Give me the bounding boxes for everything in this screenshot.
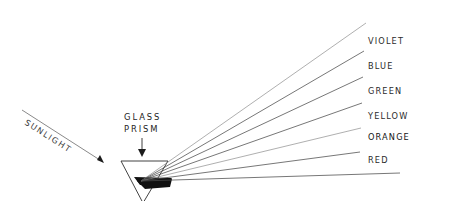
spectrum-ray-red (141, 152, 360, 181)
spectrum-ray-violet (141, 23, 366, 181)
prism-callout-group: GLASS PRISM (124, 112, 161, 157)
spectrum-label-violet: VIOLET (368, 36, 404, 46)
prism-label-line-1: GLASS (124, 112, 161, 122)
spectrum-label-column: VIOLETBLUEGREENYELLOWORANGERED (367, 36, 410, 165)
sunlight-arrowhead-icon (97, 155, 104, 163)
spectrum-ray-infrared-edge (141, 173, 400, 181)
spectrum-label-green: GREEN (368, 86, 402, 96)
spectrum-label-yellow: YELLOW (367, 111, 408, 121)
spectrum-label-orange: ORANGE (368, 132, 410, 142)
spectrum-ray-fan (141, 23, 400, 181)
spectrum-ray-green (141, 77, 363, 181)
prism-dispersion-diagram: SUNLIGHT GLASS PRISM VIOLETBLUEGREENYELL… (0, 0, 451, 201)
spectrum-ray-orange (141, 128, 361, 181)
spectrum-label-blue: BLUE (368, 61, 394, 71)
prism-label-line-2: PRISM (124, 124, 159, 134)
diagram-canvas: SUNLIGHT GLASS PRISM VIOLETBLUEGREENYELL… (0, 0, 451, 201)
arrow-down-icon (138, 149, 146, 157)
spectrum-ray-yellow (141, 103, 362, 181)
sunlight-ray-line (22, 110, 103, 162)
spectrum-label-red: RED (368, 155, 389, 165)
sunlight-ray-group: SUNLIGHT (22, 110, 104, 163)
sunlight-label: SUNLIGHT (23, 117, 74, 154)
spectrum-ray-blue (141, 51, 364, 181)
